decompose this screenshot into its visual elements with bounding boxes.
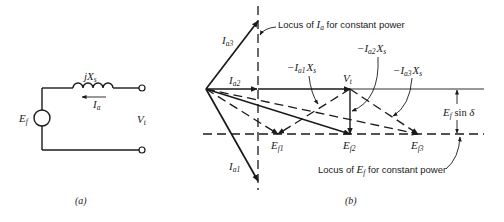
ef3-label: Ef3 [410,139,424,153]
phasor-ef1 [206,89,278,134]
emf-locus-annotation: Locus of Ef for constant power [318,163,446,177]
panel-b-phasor-diagram: Ia3 Ia2 Ia1 Vt Ef1 Ef2 Ef3 −Ia1Xs −Ia2Xs… [203,6,484,207]
drop-ia3xs-label: −Ia3Xs [393,64,422,78]
drop-ia2xs-leader [352,57,378,111]
panel-a-caption: (a) [75,195,87,207]
panel-b-caption: (b) [345,195,357,207]
current-locus-annotation: Locus of Ia for constant power [278,18,405,32]
current-label: Ia [92,98,101,112]
current-locus-leader [260,27,276,35]
drop-ia3xs-leader [393,78,412,116]
terminal-bottom [139,147,145,153]
drop-ia1xs-leader [309,76,318,104]
emf-locus-leader [446,137,460,169]
phasor-ef3 [206,89,418,134]
vt-label: Vt [343,72,353,86]
ac-source-symbol [34,110,50,126]
reactance-label: jXs [82,70,97,84]
ef-sin-delta-label: Ef sin δ [442,106,475,120]
ef2-label: Ef2 [342,139,356,153]
ia2-label: Ia2 [228,74,240,88]
ia1-label: Ia1 [228,160,240,174]
ia3-label: Ia3 [221,34,233,48]
panel-a-circuit: jXs Ia Ef Vt (a) [18,70,147,207]
drop-ia1xs-label: −Ia1Xs [287,61,316,75]
source-emf-label: Ef [18,112,29,126]
ef1-label: Ef1 [270,139,284,153]
phasor-figure: jXs Ia Ef Vt (a) Ia3 [0,0,504,222]
terminal-top [139,85,145,91]
terminal-voltage-label: Vt [137,113,147,127]
drop-ia2xs-label: −Ia2Xs [357,42,386,56]
